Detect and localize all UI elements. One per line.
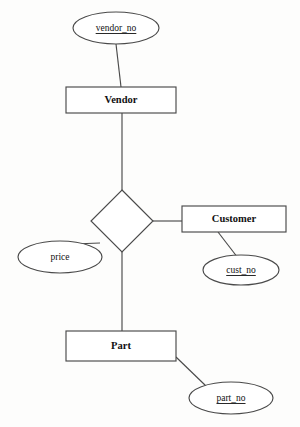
entity-part-label: Part	[111, 340, 131, 351]
connector-vendor_no-to-vendor	[116, 44, 121, 87]
connector-part-to-part_no	[176, 357, 206, 386]
entity-customer[interactable]: Customer	[182, 206, 286, 232]
attribute-vendor-no[interactable]: vendor_no	[73, 12, 159, 44]
er-diagram-svg: Vendor Customer Part vendor_no price cus…	[0, 0, 300, 427]
attribute-cust-no[interactable]: cust_no	[203, 255, 279, 285]
entity-vendor[interactable]: Vendor	[66, 87, 176, 113]
entity-vendor-label: Vendor	[105, 94, 138, 105]
attribute-part-no[interactable]: part_no	[189, 382, 273, 414]
attribute-part-no-label: part_no	[216, 393, 245, 403]
entity-customer-label: Customer	[212, 213, 257, 224]
er-diagram-canvas: Vendor Customer Part vendor_no price cus…	[0, 0, 300, 427]
connector-customer-to-cust_no	[218, 232, 238, 258]
entity-part[interactable]: Part	[66, 331, 176, 361]
relationship-supplies[interactable]	[91, 190, 153, 252]
diamond-shape	[91, 190, 153, 252]
attribute-price-label: price	[51, 252, 70, 262]
attribute-price[interactable]: price	[18, 241, 102, 273]
attribute-vendor-no-label: vendor_no	[96, 23, 137, 33]
attribute-cust-no-label: cust_no	[226, 265, 256, 275]
